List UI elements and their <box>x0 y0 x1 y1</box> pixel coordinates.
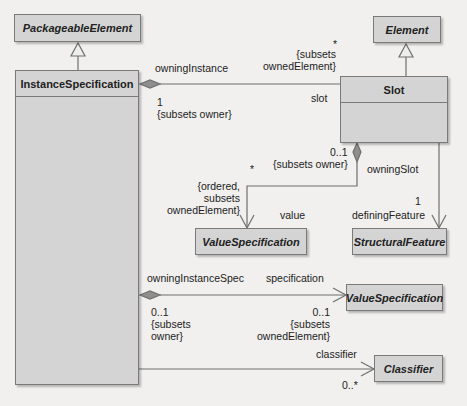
class-classifier[interactable]: Classifier <box>374 355 443 382</box>
class-name: Element <box>374 17 440 42</box>
role-slot: slot <box>311 92 327 104</box>
constraint-owning-instance-spec-1: {subsets <box>151 318 191 330</box>
constraint-value-3: ownedElement} <box>160 204 240 216</box>
class-name: Classifier <box>375 356 442 381</box>
class-name: ValueSpecification <box>196 229 306 254</box>
constraint-owning-slot: {subsets owner} <box>273 158 348 170</box>
constraint-value-2: subsets <box>180 192 240 204</box>
mult-defining-feature: 1 <box>415 195 421 207</box>
class-name: StructuralFeature <box>353 229 446 254</box>
role-specification: specification <box>266 272 324 284</box>
role-defining-feature: definingFeature <box>352 209 425 221</box>
class-value-specification[interactable]: ValueSpecification <box>195 228 307 255</box>
class-element[interactable]: Element <box>373 16 441 43</box>
mult-owning-instance: 1 <box>157 96 163 108</box>
class-name: Slot <box>341 77 447 103</box>
constraint-slot-1: {subsets <box>270 48 336 60</box>
class-name: ValueSpecification <box>347 285 442 310</box>
constraint-specification-1: {subsets <box>270 318 330 330</box>
constraint-value-1: {ordered, <box>180 180 240 192</box>
constraint-owning-instance: {subsets owner} <box>157 108 232 120</box>
constraint-owning-instance-spec-2: owner} <box>151 330 183 342</box>
role-classifier: classifier <box>316 348 357 360</box>
mult-value: * <box>250 163 254 175</box>
constraint-slot-2: ownedElement} <box>262 60 336 72</box>
mult-specification: 0..1 <box>290 306 330 318</box>
constraint-specification-2: ownedElement} <box>250 330 330 342</box>
class-packageable-element[interactable]: PackageableElement <box>14 14 141 42</box>
mult-owning-instance-spec: 0..1 <box>151 306 169 318</box>
class-slot[interactable]: Slot <box>340 76 448 143</box>
role-owning-slot: owningSlot <box>367 163 418 175</box>
mult-classifier: 0..* <box>342 379 358 391</box>
mult-owning-slot: 0..1 <box>330 146 348 158</box>
role-value: value <box>280 209 305 221</box>
class-name: InstanceSpecification <box>16 71 138 97</box>
class-value-specification-2[interactable]: ValueSpecification <box>346 284 443 311</box>
class-instance-specification[interactable]: InstanceSpecification <box>15 70 139 385</box>
class-name: PackageableElement <box>15 15 140 41</box>
class-structural-feature[interactable]: StructuralFeature <box>352 228 447 255</box>
role-owning-instance: owningInstance <box>155 62 228 74</box>
role-owning-instance-spec: owningInstanceSpec <box>147 272 244 284</box>
